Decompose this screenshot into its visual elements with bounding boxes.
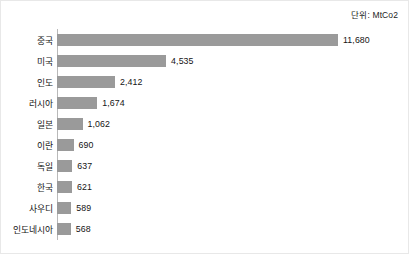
- bar-row: 사우디589: [1, 197, 409, 218]
- value-label: 1,062: [88, 119, 111, 129]
- category-label: 러시아: [29, 96, 53, 109]
- bar-row: 이란690: [1, 134, 409, 155]
- bar: [57, 97, 97, 109]
- category-label: 중국: [37, 33, 53, 46]
- category-label: 인도: [37, 75, 53, 88]
- bar-chart: 단위: MtCo2 중국11,680미국4,535인도2,412러시아1,674…: [0, 0, 409, 254]
- category-label: 한국: [37, 180, 53, 193]
- value-label: 690: [79, 140, 94, 150]
- bar: [57, 160, 72, 172]
- category-label: 사우디: [29, 201, 53, 214]
- category-label: 일본: [37, 117, 53, 130]
- bar: [57, 139, 74, 151]
- value-label: 11,680: [343, 35, 370, 45]
- bar: [57, 34, 338, 46]
- value-label: 2,412: [120, 77, 143, 87]
- value-label: 1,674: [102, 98, 125, 108]
- bar: [57, 55, 166, 67]
- bar-row: 한국621: [1, 176, 409, 197]
- bar-row: 인도2,412: [1, 71, 409, 92]
- bar: [57, 118, 83, 130]
- bar: [57, 202, 71, 214]
- value-label: 589: [76, 203, 91, 213]
- bar: [57, 223, 71, 235]
- category-label: 독일: [37, 159, 53, 172]
- bar-row: 독일637: [1, 155, 409, 176]
- value-label: 637: [77, 161, 92, 171]
- bar: [57, 181, 72, 193]
- category-label: 미국: [37, 54, 53, 67]
- bar-row: 인도네시아568: [1, 218, 409, 239]
- category-label: 인도네시아: [13, 222, 53, 235]
- bar-row: 일본1,062: [1, 113, 409, 134]
- value-label: 621: [77, 182, 92, 192]
- value-label: 4,535: [171, 56, 194, 66]
- bar-row: 미국4,535: [1, 50, 409, 71]
- plot-area: 중국11,680미국4,535인도2,412러시아1,674일본1,062이란6…: [1, 27, 409, 245]
- bar-row: 러시아1,674: [1, 92, 409, 113]
- value-label: 568: [76, 224, 91, 234]
- bar-row: 중국11,680: [1, 29, 409, 50]
- bar: [57, 76, 115, 88]
- category-label: 이란: [37, 138, 53, 151]
- unit-note-label: 단위: MtCo2: [351, 8, 398, 20]
